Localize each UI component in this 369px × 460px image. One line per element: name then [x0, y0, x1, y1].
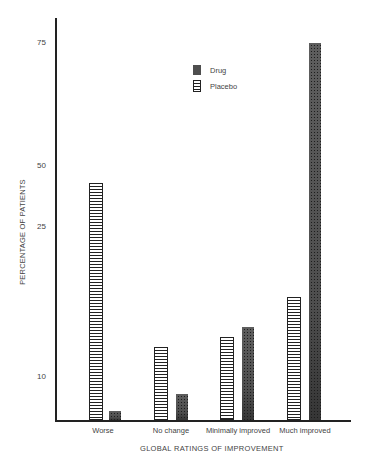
legend-item-drug: Drug — [193, 62, 237, 78]
legend-label-placebo: Placebo — [210, 82, 237, 91]
bar-drug-no-change — [176, 394, 188, 420]
y-axis-title: PERCENTAGE OF PATIENTS — [18, 179, 27, 285]
legend: Drug Placebo — [193, 62, 237, 94]
drug-stipple-swatch-icon — [193, 65, 201, 75]
y-tick-10: 10 — [22, 372, 46, 381]
bar-placebo-much-improved — [287, 297, 301, 420]
bar-drug-minimally-improved — [242, 327, 254, 420]
bar-drug-worse — [109, 411, 121, 420]
x-category-minimally-improved: Minimally improved — [206, 426, 270, 435]
legend-label-drug: Drug — [210, 66, 226, 75]
x-axis-title: GLOBAL RATINGS OF IMPROVEMENT — [140, 444, 284, 453]
bar-placebo-minimally-improved — [220, 337, 234, 420]
placebo-stripe-swatch-icon — [193, 80, 201, 92]
bar-placebo-worse — [89, 183, 103, 420]
legend-item-placebo: Placebo — [193, 78, 237, 94]
x-category-no-change: No change — [153, 426, 189, 435]
y-tick-50: 50 — [22, 161, 46, 170]
y-tick-75: 75 — [22, 38, 46, 47]
x-axis-line — [55, 420, 351, 422]
y-tick-25: 25 — [22, 222, 46, 231]
y-axis-line — [55, 18, 57, 421]
x-category-much-improved: Much improved — [279, 426, 330, 435]
bar-placebo-no-change — [154, 347, 168, 420]
x-category-worse: Worse — [92, 426, 114, 435]
bar-chart: PERCENTAGE OF PATIENTS 75 50 25 10 Drug … — [0, 0, 369, 460]
bar-drug-much-improved — [309, 43, 321, 420]
